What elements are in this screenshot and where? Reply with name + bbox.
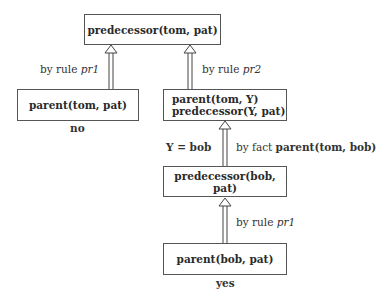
edge-right-rule-label: by rule pr2 xyxy=(202,63,261,75)
arrow-right-rule xyxy=(184,45,196,89)
node-left-result: no xyxy=(70,122,85,134)
node-middle-line2: predecessor(Y, pat) xyxy=(172,105,285,117)
node-middle-line1: parent(tom, Y) xyxy=(172,93,259,105)
node-bottom-text: parent(bob, pat) xyxy=(177,253,274,265)
arrow-fact xyxy=(219,121,231,166)
node-bottom: parent(bob, pat) xyxy=(163,243,287,275)
edge-bottom-rule-label: by rule pr1 xyxy=(236,216,295,228)
node-bottom-result: yes xyxy=(216,277,235,289)
arrow-bottom-rule xyxy=(219,198,231,243)
node-bob-goal-text: predecessor(bob, pat) xyxy=(164,170,286,194)
node-root: predecessor(tom, pat) xyxy=(84,14,221,45)
arrow-left-rule xyxy=(105,45,117,89)
edge-fact-binding: Y = bob xyxy=(166,141,211,153)
node-bob-goal: predecessor(bob, pat) xyxy=(163,166,287,197)
node-left: parent(tom, pat) xyxy=(17,89,139,121)
edge-fact-label: by fact parent(tom, bob) xyxy=(236,141,376,153)
node-middle: parent(tom, Y) predecessor(Y, pat) xyxy=(163,89,287,121)
node-left-text: parent(tom, pat) xyxy=(29,99,127,111)
edge-left-rule-label: by rule pr1 xyxy=(40,63,99,75)
node-root-text: predecessor(tom, pat) xyxy=(87,24,217,36)
